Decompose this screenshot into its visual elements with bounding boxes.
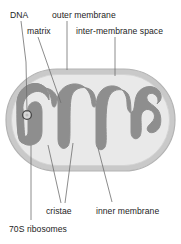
label-cristae: cristae — [46, 206, 72, 216]
mitochondrion-figure: DNA outer membrane matrix inter-membrane… — [0, 0, 181, 244]
label-inner-membrane: inner membrane — [96, 206, 159, 216]
label-dna: DNA — [10, 10, 28, 20]
label-matrix: matrix — [27, 26, 51, 36]
label-70s-ribosomes: 70S ribosomes — [9, 224, 67, 234]
label-outer-membrane: outer membrane — [52, 10, 116, 20]
label-inter-membrane-space: inter-membrane space — [76, 26, 163, 36]
dna-circle-inner — [26, 114, 29, 117]
